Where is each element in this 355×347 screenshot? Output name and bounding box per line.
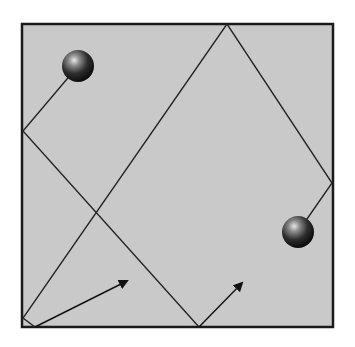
ball-right-icon [282, 216, 314, 248]
bouncing-balls-diagram [0, 0, 355, 347]
ball-left-icon [62, 50, 94, 82]
